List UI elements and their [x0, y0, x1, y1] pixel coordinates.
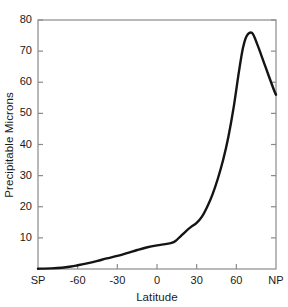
chart-figure: Precipitable Microns 01020304050607080 S… — [0, 0, 288, 307]
y-axis-tick-label: 80 — [10, 13, 32, 25]
y-axis-tick-label: 40 — [10, 138, 32, 150]
line-series-precipitable-microns — [38, 32, 276, 268]
x-axis-tick-label: 60 — [221, 274, 251, 286]
x-axis-ticks — [78, 264, 237, 269]
y-axis-tick-label: 30 — [10, 169, 32, 181]
y-axis-ticks — [38, 20, 276, 238]
x-axis-tick-label: SP — [23, 274, 53, 286]
x-axis-tick-label: 0 — [142, 274, 172, 286]
y-axis-tick-label: 70 — [10, 44, 32, 56]
x-axis-label: Latitude — [38, 291, 276, 303]
y-axis-tick-label: 20 — [10, 200, 32, 212]
data-series-group — [38, 32, 276, 268]
chart-plot-area — [0, 0, 288, 307]
y-axis-tick-label: 10 — [10, 231, 32, 243]
x-axis-tick-label: 30 — [182, 274, 212, 286]
x-axis-tick-label: -30 — [102, 274, 132, 286]
x-axis-tick-label: NP — [261, 274, 288, 286]
x-axis-tick-label: -60 — [63, 274, 93, 286]
y-axis-tick-label: 60 — [10, 75, 32, 87]
y-axis-tick-label: 50 — [10, 106, 32, 118]
